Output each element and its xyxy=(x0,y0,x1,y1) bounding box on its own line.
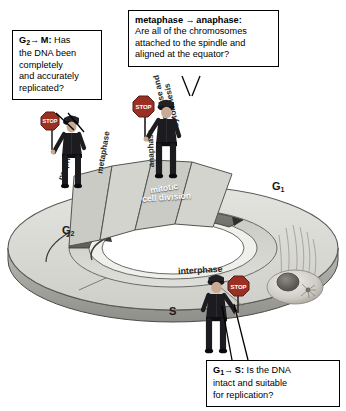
callout-g1-to-s: G1→ S: Is the DNA intact and suitable fo… xyxy=(206,360,340,407)
callout-g1s-heading: G1→ S: Is the DNA xyxy=(213,365,334,378)
callout-meta-heading: metaphase → anaphase: xyxy=(135,15,273,26)
callout-g2m-line5: replicated? xyxy=(19,83,96,94)
callout-g2m-line4: and accurately xyxy=(19,71,96,82)
callout-meta-line1: Are all of the chromosomes xyxy=(135,26,273,37)
callout-g2m-line2: the DNA been xyxy=(19,48,96,59)
leader-g2m-b xyxy=(68,113,84,132)
callout-meta-line3: aligned at the equator? xyxy=(135,49,273,60)
callout-g1s-line3: for replication? xyxy=(213,390,334,401)
diagram-canvas: prophase metaphase anaphase telophase an… xyxy=(0,0,346,411)
leader-meta-a xyxy=(182,76,190,96)
callout-g2m-line3: completely xyxy=(19,60,96,71)
callout-g2-to-m: G2→ M: Has the DNA been completely and a… xyxy=(12,30,102,100)
callout-meta-line2: attached to the spindle and xyxy=(135,38,273,49)
callout-g2m-heading: G2→ M: Has xyxy=(19,35,96,48)
leader-g2m-a xyxy=(56,113,74,130)
callout-metaphase-to-anaphase: metaphase → anaphase: Are all of the chr… xyxy=(128,10,279,67)
callout-g1s-line2: intact and suitable xyxy=(213,378,334,389)
leader-g1s-b xyxy=(234,304,248,360)
leader-meta-b xyxy=(192,76,200,96)
leader-g1s-a xyxy=(222,306,232,360)
